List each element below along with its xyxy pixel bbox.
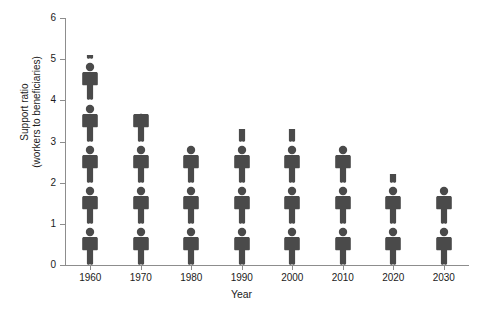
x-tick-1990 [242,266,243,270]
x-tick-2030 [444,266,445,270]
pictograph-column-2020 [365,174,421,265]
person-icon [62,224,118,265]
person-icon [62,59,118,100]
person-icon [315,142,371,183]
pictograph-chart: Support ratio (workers to beneficiaries)… [0,0,483,311]
x-tick-2000 [292,266,293,270]
person-icon-partial [62,55,118,59]
person-icon [416,183,472,224]
x-tick-label-1980: 1980 [163,272,219,283]
person-icon [163,142,219,183]
x-tick-label-2030: 2030 [416,272,472,283]
person-icon [62,142,118,183]
y-tick-label-2: 2 [0,178,56,188]
person-icon [315,183,371,224]
pictograph-column-1970 [113,113,169,265]
person-icon-partial [264,129,320,141]
person-icon [62,183,118,224]
y-tick-label-5: 5 [0,54,56,64]
pictograph-column-1990 [214,129,270,265]
person-icon [113,183,169,224]
person-icon [264,142,320,183]
person-icon [113,224,169,265]
pictograph-column-1980 [163,142,219,266]
person-icon-partial [214,129,270,141]
pictograph-column-2010 [315,142,371,266]
x-axis-line [65,265,469,266]
y-tick-0 [60,265,65,266]
y-tick-6 [60,18,65,19]
person-icon [214,183,270,224]
person-icon [214,142,270,183]
x-tick-1960 [90,266,91,270]
x-tick-2020 [393,266,394,270]
y-axis-title-line-1: Support ratio [19,83,30,140]
y-tick-label-0: 0 [0,260,56,270]
person-icon [264,183,320,224]
y-axis-title-line-2: (workers to beneficiaries) [31,56,42,168]
person-icon [365,224,421,265]
x-tick-label-2010: 2010 [315,272,371,283]
x-tick-label-1960: 1960 [62,272,118,283]
person-icon [214,224,270,265]
person-icon [163,224,219,265]
person-icon [416,224,472,265]
x-tick-2010 [343,266,344,270]
person-icon [62,100,118,141]
x-tick-label-1970: 1970 [113,272,169,283]
x-tick-label-2020: 2020 [365,272,421,283]
person-icon [264,224,320,265]
person-icon [163,183,219,224]
x-tick-1980 [191,266,192,270]
person-icon-partial [113,113,169,142]
x-tick-label-2000: 2000 [264,272,320,283]
y-tick-label-1: 1 [0,219,56,229]
person-icon [113,142,169,183]
y-tick-label-3: 3 [0,137,56,147]
y-tick-label-4: 4 [0,95,56,105]
pictograph-column-1960 [62,55,118,265]
person-icon [365,183,421,224]
pictograph-column-2000 [264,129,320,265]
x-tick-label-1990: 1990 [214,272,270,283]
person-icon [315,224,371,265]
person-icon-partial [365,174,421,182]
x-axis-title: Year [0,288,483,300]
y-tick-label-6: 6 [0,13,56,23]
pictograph-column-2030 [416,183,472,265]
x-tick-1970 [141,266,142,270]
